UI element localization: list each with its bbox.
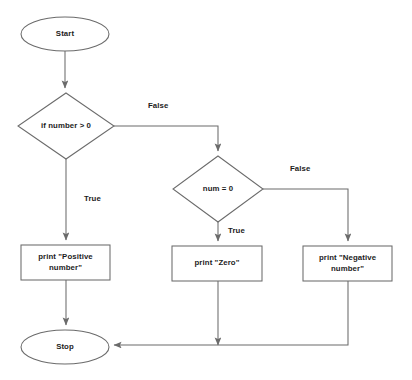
node-print-zero-shape	[172, 246, 262, 281]
edge-decision2-false	[263, 189, 348, 241]
node-print-negative-shape	[303, 246, 392, 281]
node-decision-positive-shape	[18, 93, 114, 159]
node-print-positive-shape	[21, 245, 110, 280]
edge-label-true-decision1: True	[84, 194, 101, 203]
node-decision-zero-shape	[173, 156, 263, 222]
node-stop-shape	[21, 330, 109, 364]
edge-label-true-decision2: True	[228, 226, 245, 235]
flowchart-graphics	[0, 0, 412, 380]
edge-label-false-decision1: False	[148, 101, 168, 110]
edge-label-false-decision2: False	[290, 164, 310, 173]
flowchart-canvas: Start if number > 0 num = 0 print "Posit…	[0, 0, 412, 380]
edge-decision1-false	[114, 126, 218, 151]
node-start-shape	[21, 17, 109, 51]
edge-negative-to-stop	[114, 281, 348, 345]
